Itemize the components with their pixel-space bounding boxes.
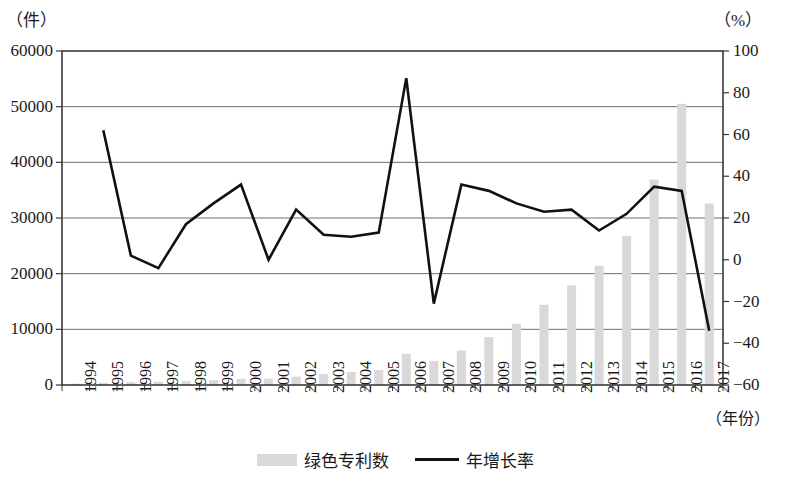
legend-item-line: 年增长率	[415, 447, 534, 472]
bar-2011	[539, 305, 548, 385]
bar-2006	[402, 354, 411, 385]
legend-bar-label: 绿色专利数	[304, 447, 389, 472]
bar-2014	[622, 236, 631, 385]
bar-2009	[484, 337, 493, 385]
legend-line-label: 年增长率	[466, 447, 534, 472]
bar-2003	[319, 374, 328, 385]
green-patent-chart: （件） （%） 6000050000400003000020000100000 …	[0, 0, 790, 480]
bar-2010	[512, 324, 521, 385]
bar-2000	[236, 379, 245, 385]
chart-legend: 绿色专利数 年增长率	[0, 447, 790, 472]
bar-2002	[292, 377, 301, 385]
bar-2017	[705, 204, 714, 385]
bar-2008	[457, 350, 466, 385]
plot-area	[0, 0, 790, 480]
growth-rate-line	[103, 78, 709, 331]
bar-2007	[429, 361, 438, 385]
bar-2015	[650, 180, 659, 385]
legend-line-swatch-icon	[415, 458, 459, 461]
bar-2012	[567, 285, 576, 385]
legend-bar-swatch-icon	[257, 454, 297, 466]
bar-2016	[677, 104, 686, 385]
bar-2001	[264, 379, 273, 385]
legend-item-bar: 绿色专利数	[257, 447, 389, 472]
bar-2013	[595, 266, 604, 385]
bar-2004	[347, 372, 356, 385]
bar-2005	[374, 370, 383, 385]
